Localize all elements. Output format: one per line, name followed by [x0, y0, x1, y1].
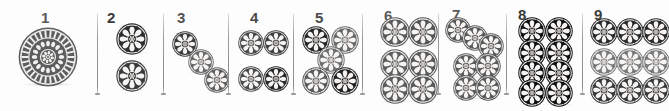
- rosette-motif[interactable]: [238, 30, 264, 56]
- panel-1[interactable]: 1: [0, 0, 97, 111]
- rosette-motif[interactable]: [408, 74, 438, 104]
- panel-6[interactable]: 6: [362, 0, 438, 111]
- rosette-icon: [238, 66, 264, 92]
- rosette-icon: [380, 17, 410, 47]
- panel-2[interactable]: 2: [97, 0, 163, 111]
- rosette-icon: [204, 67, 230, 93]
- rosette-icon: [590, 48, 618, 76]
- rosette-motif[interactable]: [263, 30, 289, 56]
- rosette-icon: [331, 67, 359, 95]
- rosette-motif[interactable]: [331, 67, 359, 95]
- panel-separator-2: [163, 14, 164, 94]
- rosette-motif[interactable]: [408, 17, 438, 47]
- rosette-icon: [475, 75, 501, 101]
- rosette-motif[interactable]: [518, 79, 546, 107]
- rosette-motif[interactable]: [616, 48, 644, 76]
- rosette-icon: [642, 48, 669, 76]
- rosette-icon: [590, 76, 618, 104]
- panel-number-label: 2: [107, 10, 115, 25]
- panel-separator-4: [293, 14, 294, 94]
- rosette-motif[interactable]: [590, 18, 618, 46]
- panel-separator-1: [97, 14, 98, 94]
- rosette-icon: [408, 17, 438, 47]
- rosette-motif[interactable]: [590, 48, 618, 76]
- rosette-icon: [263, 30, 289, 56]
- panel-separator-7: [506, 14, 507, 94]
- panel-separator-5: [362, 14, 363, 94]
- rosette-motif[interactable]: [204, 67, 230, 93]
- panel-number-label: 3: [177, 10, 185, 25]
- rosette-icon: [616, 18, 644, 46]
- panel-number-label: 4: [250, 10, 258, 25]
- figure-plate: 123456789: [0, 0, 669, 111]
- rosette-icon: [302, 67, 330, 95]
- mandala-icon: [18, 27, 78, 87]
- panel-9[interactable]: 9: [582, 0, 669, 111]
- panel-8[interactable]: 8: [506, 0, 582, 111]
- rosette-motif[interactable]: [642, 18, 669, 46]
- rosette-icon: [642, 18, 669, 46]
- panel-separator-3: [228, 14, 229, 94]
- rosette-motif[interactable]: [116, 23, 148, 55]
- mandala-motif[interactable]: [18, 27, 78, 87]
- panel-number-label: 5: [315, 10, 323, 25]
- rosette-icon: [616, 48, 644, 76]
- rosette-motif[interactable]: [590, 76, 618, 104]
- panel-7[interactable]: 7: [438, 0, 506, 111]
- rosette-motif[interactable]: [380, 74, 410, 104]
- rosette-motif[interactable]: [642, 48, 669, 76]
- panel-4[interactable]: 4: [228, 0, 293, 111]
- panel-5[interactable]: 5: [293, 0, 362, 111]
- rosette-icon: [545, 79, 573, 107]
- rosette-icon: [380, 74, 410, 104]
- rosette-motif[interactable]: [545, 79, 573, 107]
- rosette-icon: [238, 30, 264, 56]
- rosette-motif[interactable]: [380, 17, 410, 47]
- rosette-icon: [116, 60, 148, 92]
- rosette-motif[interactable]: [263, 66, 289, 92]
- panel-3[interactable]: 3: [163, 0, 228, 111]
- rosette-motif[interactable]: [475, 75, 501, 101]
- rosette-motif[interactable]: [642, 76, 669, 104]
- rosette-motif[interactable]: [302, 67, 330, 95]
- rosette-motif[interactable]: [616, 76, 644, 104]
- panel-separator-8: [582, 14, 583, 94]
- rosette-icon: [518, 79, 546, 107]
- rosette-motif[interactable]: [238, 66, 264, 92]
- panel-number-label: 1: [41, 10, 49, 25]
- rosette-icon: [408, 74, 438, 104]
- rosette-icon: [590, 18, 618, 46]
- panel-separator-6: [438, 14, 439, 94]
- rosette-motif[interactable]: [616, 18, 644, 46]
- rosette-icon: [616, 76, 644, 104]
- rosette-icon: [263, 66, 289, 92]
- rosette-icon: [116, 23, 148, 55]
- rosette-motif[interactable]: [116, 60, 148, 92]
- rosette-icon: [642, 76, 669, 104]
